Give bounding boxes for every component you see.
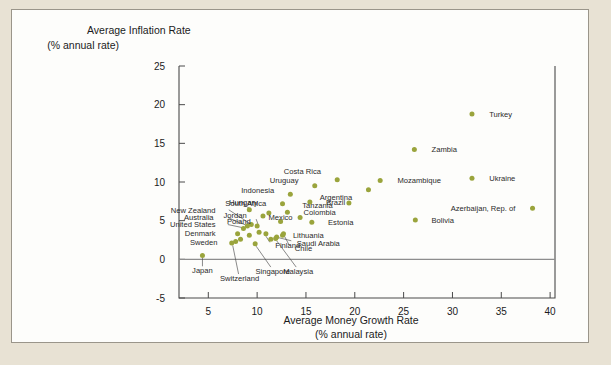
data-point (469, 111, 474, 116)
data-point (268, 237, 273, 242)
data-point (469, 176, 474, 181)
y-tick-label: 20 (154, 99, 166, 110)
data-point (281, 231, 286, 236)
x-tick-label: 10 (252, 306, 264, 317)
data-point (530, 206, 535, 211)
figure-panel: Average Inflation Rate (% annual rate) A… (11, 9, 589, 343)
data-point (366, 187, 371, 192)
data-point (413, 217, 418, 222)
data-point (255, 224, 260, 229)
point-label: Estonia (328, 218, 354, 227)
data-point (238, 237, 243, 242)
data-point (247, 207, 252, 212)
data-point (247, 233, 252, 238)
y-axis-ticks: -50510152025 (154, 61, 185, 304)
point-label: Hungary (229, 198, 258, 207)
y-axis-subtitle: (% annual rate) (47, 39, 119, 51)
y-axis-title: Average Inflation Rate (87, 24, 191, 36)
x-tick-label: 15 (300, 306, 312, 317)
x-tick-label: 5 (206, 306, 212, 317)
point-label: Finland (275, 241, 300, 250)
data-point (288, 192, 293, 197)
data-point (260, 214, 265, 219)
data-point (257, 230, 262, 235)
point-label: Poland (227, 217, 251, 226)
data-point (335, 177, 340, 182)
y-tick-label: 10 (154, 177, 166, 188)
x-tick-label: 40 (545, 306, 557, 317)
data-point (280, 201, 285, 206)
leader-line (256, 246, 271, 267)
y-tick-label: 5 (159, 215, 165, 226)
point-label: Costa Rica (284, 167, 322, 176)
y-tick-label: 25 (154, 61, 166, 72)
data-point (309, 220, 314, 225)
point-label: Azerbaijan, Rep. of (451, 204, 516, 213)
scatter-chart: Average Inflation Rate (% annual rate) A… (12, 10, 590, 344)
y-tick-label: 15 (154, 138, 166, 149)
data-point (412, 147, 417, 152)
y-tick-label: 0 (159, 254, 165, 265)
point-label: Turkey (489, 110, 512, 119)
data-point (312, 183, 317, 188)
x-tick-label: 25 (398, 306, 410, 317)
point-label: Mexico (269, 213, 293, 222)
point-label: Switzerland (220, 274, 259, 283)
point-label: Zambia (432, 145, 458, 154)
point-label: Mozambique (397, 176, 440, 185)
point-label: Colombia (304, 208, 337, 217)
point-label: Brazil (326, 198, 345, 207)
x-tick-label: 20 (349, 306, 361, 317)
data-point (235, 231, 240, 236)
point-label: Sweden (190, 238, 217, 247)
point-labels: TurkeyZambiaUkraineMozambiqueAzerbaijan,… (170, 110, 516, 283)
point-label: Ukraine (489, 174, 515, 183)
data-point (298, 215, 303, 220)
data-point (378, 178, 383, 183)
x-tick-label: 35 (496, 306, 508, 317)
data-point (263, 231, 268, 236)
data-point (200, 253, 205, 258)
point-label: Bolivia (432, 216, 455, 225)
point-label: Indonesia (241, 186, 275, 195)
point-label: Malaysia (283, 267, 314, 276)
point-label: Denmark (185, 229, 216, 238)
axis-titles: Average Inflation Rate (% annual rate) A… (47, 24, 419, 340)
x-tick-label: 30 (447, 306, 459, 317)
data-point (241, 226, 246, 231)
point-label: Japan (192, 266, 213, 275)
x-axis-subtitle: (% annual rate) (315, 328, 387, 340)
point-label: Uruguay (270, 176, 299, 185)
data-point (253, 241, 258, 246)
y-tick-label: -5 (156, 293, 165, 304)
data-point (229, 241, 234, 246)
